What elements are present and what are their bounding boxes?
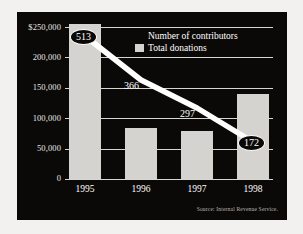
point-label-1996: 366 — [124, 81, 139, 91]
y-tick-label: 200,000 — [33, 53, 61, 62]
y-tick-label: 50,000 — [37, 144, 61, 153]
x-tick-label-1997: 1997 — [177, 184, 217, 195]
source-note: Source: Internal Revenue Service. — [197, 206, 278, 213]
chart-legend: Number of contributors Total donations — [135, 30, 238, 54]
point-label-1998: 172 — [238, 135, 265, 151]
y-axis-labels: $250,000 200,000 150,000 100,000 50,000 … — [17, 27, 61, 179]
chart-figure: $250,000 200,000 150,000 100,000 50,000 … — [0, 0, 303, 234]
x-tick-label-1998: 1998 — [233, 184, 273, 195]
chart-panel: $250,000 200,000 150,000 100,000 50,000 … — [17, 12, 287, 220]
legend-label-contributors: Number of contributors — [148, 30, 238, 42]
legend-item-donations: Total donations — [135, 42, 238, 54]
legend-square-swatch-icon — [135, 44, 144, 52]
legend-line-swatch-icon — [135, 32, 144, 40]
point-label-1995: 513 — [70, 29, 97, 45]
y-tick-label: 0 — [57, 174, 61, 183]
x-tick-label-1996: 1996 — [121, 184, 161, 195]
y-tick-label: 100,000 — [33, 114, 61, 123]
gridline — [65, 179, 273, 180]
y-tick-label: 150,000 — [33, 83, 61, 92]
x-tick-label-1995: 1995 — [65, 184, 105, 195]
y-tick-label: $250,000 — [28, 23, 61, 32]
point-label-1997: 297 — [180, 109, 195, 119]
legend-item-contributors: Number of contributors — [135, 30, 238, 42]
legend-label-donations: Total donations — [148, 42, 207, 54]
x-axis-labels: 1995 1996 1997 1998 — [65, 184, 273, 198]
